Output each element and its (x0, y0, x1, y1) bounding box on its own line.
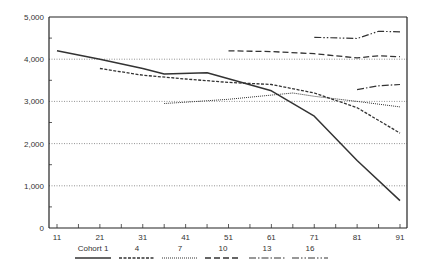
series-line-10 (229, 51, 401, 58)
series-line-cohort-1 (57, 51, 400, 201)
x-tick-label: 11 (53, 233, 62, 242)
series-line-16 (314, 31, 400, 38)
x-tick-label: 71 (310, 233, 319, 242)
y-tick-label: 1,000 (24, 182, 45, 191)
legend-label: Cohort 1 (78, 244, 109, 253)
series-line-7 (164, 93, 400, 107)
x-tick-label: 91 (396, 233, 405, 242)
legend-label: 4 (135, 244, 140, 253)
legend-label: 7 (178, 244, 183, 253)
legend-label: 13 (263, 244, 272, 253)
y-tick-label: 0 (40, 224, 45, 233)
axes: 01,0002,0003,0004,0005,00011213141516171… (24, 13, 407, 242)
x-tick-label: 61 (267, 233, 276, 242)
x-tick-label: 81 (353, 233, 362, 242)
x-tick-label: 51 (224, 233, 233, 242)
y-tick-label: 4,000 (24, 55, 45, 64)
y-tick-label: 3,000 (24, 97, 45, 106)
series-line-13 (357, 85, 400, 90)
series-lines (57, 31, 400, 200)
legend: Cohort 147101316 (75, 244, 328, 258)
x-tick-label: 41 (181, 233, 190, 242)
line-chart: 01,0002,0003,0004,0005,00011213141516171… (0, 0, 429, 274)
series-line-4 (100, 69, 400, 134)
legend-label: 10 (219, 244, 228, 253)
y-tick-label: 5,000 (24, 13, 45, 22)
legend-label: 16 (306, 244, 315, 253)
x-tick-label: 31 (138, 233, 147, 242)
x-tick-label: 21 (95, 233, 104, 242)
y-tick-label: 2,000 (24, 140, 45, 149)
